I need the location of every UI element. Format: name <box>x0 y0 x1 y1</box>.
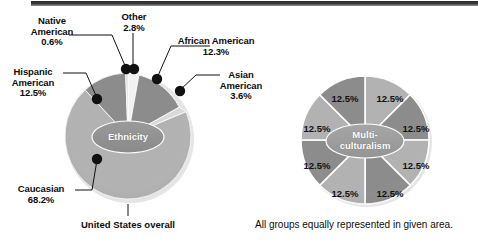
slice-label-group-1: 12.5% <box>370 93 410 104</box>
label-african-american-line2: 12.3% <box>203 46 229 57</box>
label-native-american-line2: American <box>31 26 74 37</box>
slice-label-group-5: 12.5% <box>325 188 365 199</box>
left-pie-center-label: Ethnicity <box>93 132 163 143</box>
label-asian-american-line1: Asian <box>228 69 253 80</box>
slice-label-group-6: 12.5% <box>297 160 337 171</box>
slice-label-group-2: 12.5% <box>396 123 436 134</box>
slice-label-group-4: 12.5% <box>370 188 410 199</box>
dot-african-american <box>152 74 162 84</box>
dot-hispanic-american <box>92 94 102 104</box>
figure-root: Native American 0.6% Other 2.8% African … <box>0 0 478 242</box>
label-hispanic-american-line1: Hispanic <box>14 66 53 77</box>
slice-label-group-3: 12.5% <box>396 160 436 171</box>
caption-all-groups-equally-represented: All groups equally represented in given … <box>230 219 478 230</box>
label-hispanic-american-line3: 12.5% <box>20 87 46 98</box>
label-african-american: African American 12.3% <box>168 36 264 57</box>
label-hispanic-american-line2: American <box>12 77 55 88</box>
label-other: Other 2.8% <box>108 12 160 33</box>
dot-asian-american <box>175 86 185 96</box>
dot-caucasian <box>92 154 102 164</box>
dot-other <box>129 64 139 74</box>
label-hispanic-american: Hispanic American 12.5% <box>3 67 63 99</box>
label-asian-american-line3: 3.6% <box>230 90 251 101</box>
label-native-american: Native American 0.6% <box>22 16 82 48</box>
label-native-american-line3: 0.6% <box>41 36 62 47</box>
caption-united-states-overall: United States overall <box>68 219 188 230</box>
slice-label-group-7: 12.5% <box>297 123 337 134</box>
label-other-line1: Other <box>122 11 147 22</box>
right-pie-center-label-line2: culturalism <box>340 140 391 151</box>
right-pie-center-label: Multi- culturalism <box>330 130 400 151</box>
label-caucasian: Caucasian 68.2% <box>7 184 75 205</box>
label-native-american-line1: Native <box>38 15 66 26</box>
label-caucasian-line2: 68.2% <box>28 194 54 205</box>
label-african-american-line1: African American <box>178 35 255 46</box>
label-asian-american-line2: American <box>220 80 263 91</box>
label-asian-american: Asian American 3.6% <box>210 70 272 102</box>
label-other-line2: 2.8% <box>123 22 144 33</box>
slice-label-group-8: 12.5% <box>325 93 365 104</box>
label-caucasian-line1: Caucasian <box>18 183 65 194</box>
right-pie-center-label-line1: Multi- <box>352 129 377 140</box>
